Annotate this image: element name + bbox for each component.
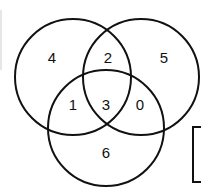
circle-c — [48, 70, 164, 186]
region-bc: 0 — [136, 96, 144, 113]
circle-b — [83, 19, 199, 135]
venn-diagram: 4 2 5 1 3 0 6 — [0, 0, 201, 192]
region-ac: 1 — [69, 96, 77, 113]
region-b-only: 5 — [160, 49, 168, 66]
region-a-only: 4 — [48, 49, 56, 66]
cropped-box — [192, 126, 201, 183]
region-abc: 3 — [102, 96, 110, 113]
region-ab: 2 — [104, 49, 112, 66]
region-c-only: 6 — [102, 144, 110, 161]
circle-a — [15, 19, 131, 135]
